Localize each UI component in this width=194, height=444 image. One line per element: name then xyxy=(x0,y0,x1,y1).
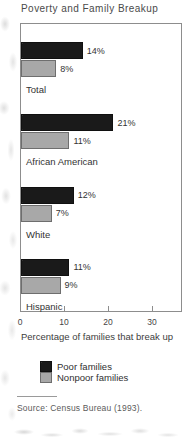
tick-label: 20 xyxy=(103,318,112,327)
bar-african-american-nonpoor-families xyxy=(21,132,69,149)
group-label-white: White xyxy=(26,230,50,240)
bar-value-label: 11% xyxy=(73,137,90,146)
bar-value-label: 9% xyxy=(65,281,78,290)
source-divider xyxy=(17,396,57,397)
bar-total-nonpoor-families xyxy=(21,60,56,77)
bar-value-label: 7% xyxy=(56,209,69,218)
bar-hispanic-nonpoor-families xyxy=(21,277,61,294)
paper-texture-left xyxy=(0,0,22,444)
bar-value-label: 8% xyxy=(60,65,73,74)
bar-african-american-poor-families xyxy=(21,114,113,131)
legend-label-nonpoor: Nonpoor families xyxy=(57,372,128,383)
x-axis-title: Percentage of families that break up xyxy=(0,331,194,342)
group-label-african-american: African American xyxy=(26,157,98,167)
plot-area: 14%8%Total21%11%African American12%7%Whi… xyxy=(21,24,181,311)
bar-hispanic-poor-families xyxy=(21,259,69,276)
paper-texture-bottom xyxy=(0,424,194,444)
bar-white-poor-families xyxy=(21,187,74,204)
tick-mark xyxy=(108,306,109,312)
legend-swatch-poor-icon xyxy=(40,361,52,372)
chart-legend: Poor families Nonpoor families xyxy=(40,361,128,383)
group-label-total: Total xyxy=(26,85,46,95)
tick-label: 0 xyxy=(18,318,23,327)
plot-frame: 14%8%Total21%11%African American12%7%Whi… xyxy=(20,23,182,312)
x-axis-ticks: 0102030 xyxy=(20,312,182,318)
tick-mark xyxy=(152,306,153,312)
tick-label: 10 xyxy=(59,318,68,327)
legend-label-poor: Poor families xyxy=(57,361,112,372)
tick-label: 30 xyxy=(147,318,156,327)
bar-white-nonpoor-families xyxy=(21,205,52,222)
bar-value-label: 11% xyxy=(73,263,90,272)
bar-total-poor-families xyxy=(21,42,83,59)
tick-mark xyxy=(64,306,65,312)
bar-value-label: 21% xyxy=(117,119,135,128)
bar-value-label: 14% xyxy=(87,47,105,56)
chart-title: Poverty and Family Breakup xyxy=(21,3,158,14)
group-label-hispanic: Hispanic xyxy=(26,302,62,312)
bar-value-label: 12% xyxy=(78,191,96,200)
legend-item-poor: Poor families xyxy=(40,361,128,372)
legend-item-nonpoor: Nonpoor families xyxy=(40,372,128,383)
source-note: Source: Census Bureau (1993). xyxy=(17,403,142,413)
legend-swatch-nonpoor-icon xyxy=(40,372,52,383)
